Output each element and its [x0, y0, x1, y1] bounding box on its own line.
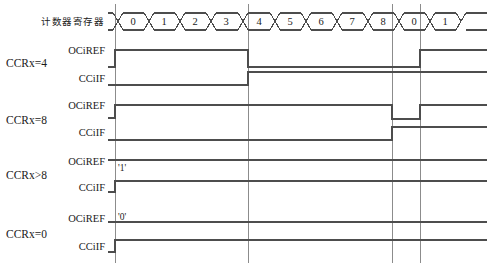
signal-ccrxgt8-ccif [108, 181, 487, 192]
counter-cell-10: 1 [432, 17, 458, 28]
timing-diagram: 计数器寄存器 0 1 2 3 4 5 6 7 8 0 1 CCRx=4 OCiR… [0, 0, 490, 269]
signal-label-ccrx4-ccif: CCiIF [15, 74, 105, 85]
signal-label-ccrxgt8-ocref: OCiREF [15, 157, 105, 168]
signal-label-ccrx0-ccif: CCiIF [15, 242, 105, 253]
signal-label-ccrx4-ocref: OCiREF [15, 46, 105, 57]
group-label-ccrx8: CCRx=8 [6, 115, 47, 127]
signal-label-ccrx8-ccif: CCiIF [15, 128, 105, 139]
counter-cell-1: 1 [151, 17, 177, 28]
counter-cell-3: 3 [213, 17, 239, 28]
signal-ccrx4-ccif [108, 72, 487, 85]
level-note-ccrx0-ocref: '0' [118, 212, 126, 222]
signal-label-ccrx0-ocref: OCiREF [15, 214, 105, 225]
counter-cell-2: 2 [182, 17, 208, 28]
counter-cell-4: 4 [246, 17, 272, 28]
counter-cell-8: 8 [370, 17, 396, 28]
counter-register-label: 计数器寄存器 [41, 17, 104, 27]
signal-ccrx0-ccif [108, 240, 487, 252]
signal-ccrx8-ocref [108, 105, 487, 119]
group-label-ccrx0: CCRx=0 [6, 229, 47, 241]
signal-ccrx4-ocref [108, 50, 487, 67]
signal-ccrx8-ccif [108, 127, 487, 140]
counter-cell-0: 0 [120, 17, 146, 28]
signal-label-ccrxgt8-ccif: CCiIF [15, 183, 105, 194]
counter-cell-5: 5 [277, 17, 303, 28]
level-note-ccrxgt8-ocref: '1' [118, 163, 126, 173]
group-label-ccrx4: CCRx=4 [6, 58, 47, 70]
group-label-ccrxgt8: CCRx>8 [6, 170, 47, 182]
counter-cell-9: 0 [401, 17, 427, 28]
counter-cell-7: 7 [339, 17, 365, 28]
signal-label-ccrx8-ocref: OCiREF [15, 101, 105, 112]
counter-cell-6: 6 [308, 17, 334, 28]
